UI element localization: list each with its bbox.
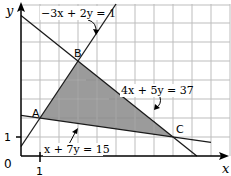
vertex-a-label: A xyxy=(32,107,40,120)
label-4x-plus-5y-eq-37: 4x + 5y = 37 xyxy=(121,84,194,97)
y-axis-label: y xyxy=(5,3,14,18)
labels: y x 0 1 1 −3x + 2y = 1 4x + 5y = 37 x + … xyxy=(0,0,231,176)
x-tick-label: 1 xyxy=(36,165,43,176)
vertex-b-label: B xyxy=(74,47,82,60)
x-axis-label: x xyxy=(222,161,230,176)
y-tick-label: 1 xyxy=(4,131,11,144)
vertex-c-label: C xyxy=(176,123,184,136)
label-neg3x-plus-2y-eq-1: −3x + 2y = 1 xyxy=(41,7,116,20)
label-x-plus-7y-eq-15: x + 7y = 15 xyxy=(44,143,110,156)
origin-label: 0 xyxy=(4,157,12,171)
